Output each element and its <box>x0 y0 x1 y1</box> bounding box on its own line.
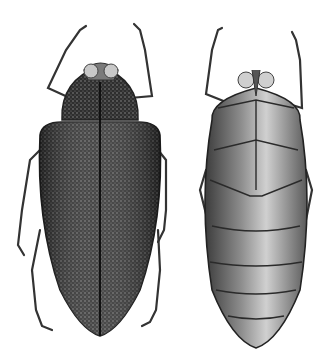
dorsal-head <box>84 63 118 80</box>
beetle-plate <box>0 0 328 364</box>
